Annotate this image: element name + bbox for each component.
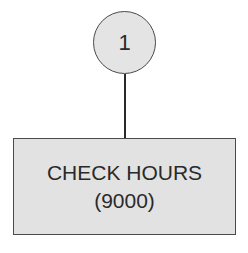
step-number-node: 1 bbox=[93, 11, 156, 74]
action-title: CHECK HOURS bbox=[47, 159, 202, 187]
action-code: (9000) bbox=[94, 187, 155, 215]
step-number-label: 1 bbox=[118, 30, 130, 56]
connector-line bbox=[124, 74, 126, 138]
action-box-node: CHECK HOURS (9000) bbox=[13, 138, 236, 235]
